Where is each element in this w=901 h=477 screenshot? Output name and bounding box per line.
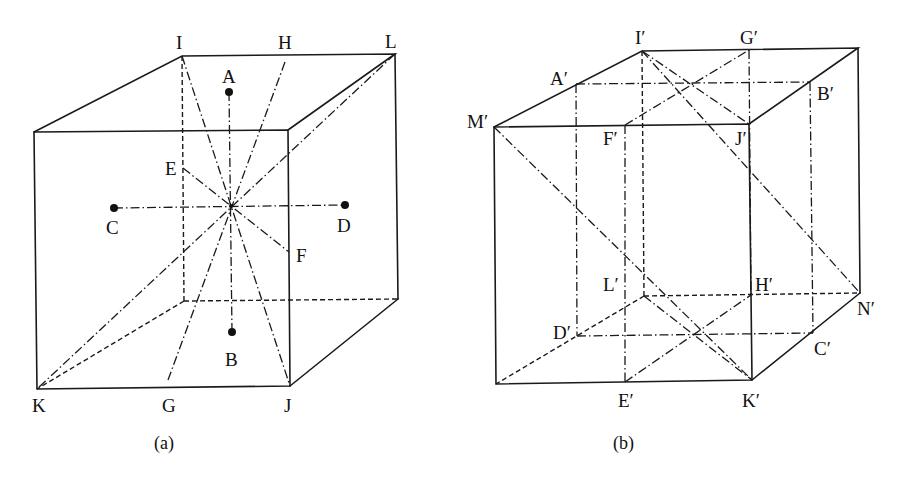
label-b-M: M′: [467, 111, 488, 132]
panel-a-cube: I H L A E C D F B K G J (a): [32, 31, 398, 454]
center-dot: [229, 204, 233, 208]
label-b-G: G′: [740, 27, 758, 48]
label-a-J: J: [284, 395, 291, 416]
label-b-E: E′: [618, 390, 634, 411]
label-a-A: A: [222, 66, 236, 87]
label-b-N: N′: [857, 298, 875, 319]
cube-symmetry-figure: I H L A E C D F B K G J (a): [0, 0, 901, 477]
point-b-dot: [228, 328, 236, 336]
point-c-dot: [110, 204, 118, 212]
label-b-I: I′: [635, 27, 645, 48]
label-a-G: G: [162, 395, 176, 416]
panel-b-visible-edges: [494, 48, 860, 384]
label-b-K: K′: [742, 390, 760, 411]
label-a-L: L: [385, 31, 397, 52]
label-b-F: F′: [603, 128, 618, 149]
label-b-L: L′: [603, 274, 619, 295]
point-d-dot: [341, 201, 349, 209]
caption-a: (a): [154, 433, 174, 454]
panel-b-hidden-edges: [496, 51, 860, 384]
panel-b-symmetry-lines: [494, 50, 860, 382]
point-a-dot: [225, 88, 233, 96]
label-a-C: C: [106, 217, 119, 238]
label-b-B: B′: [817, 83, 834, 104]
label-a-F: F: [296, 245, 307, 266]
label-a-D: D: [337, 215, 351, 236]
caption-b: (b): [613, 433, 634, 454]
panel-b-cube: I′ G′ A′ B′ M′ F′ J′ L′ H′ N′ D′ C′ E′ K…: [467, 27, 875, 454]
label-b-A: A′: [550, 68, 568, 89]
label-b-C: C′: [814, 338, 831, 359]
label-a-B: B: [225, 349, 238, 370]
label-b-D: D′: [553, 322, 571, 343]
label-a-H: H: [278, 32, 292, 53]
label-b-J: J′: [735, 128, 747, 149]
label-a-I: I: [176, 32, 182, 53]
label-b-H: H′: [755, 274, 773, 295]
label-a-E: E: [165, 158, 177, 179]
label-a-K: K: [32, 395, 46, 416]
